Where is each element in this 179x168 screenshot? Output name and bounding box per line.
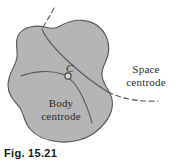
label-space-centrode: Space centrode [116, 63, 176, 88]
figure-caption: Fig. 15.21 [4, 147, 57, 159]
rigid-body-blob [8, 20, 112, 142]
figure-container: C Space centrode Body centrode Fig. 15.2… [0, 0, 179, 168]
space-centrode-upper-dashed [42, 8, 54, 29]
space-centrode-lower-dashed [108, 92, 158, 101]
label-body-centrode: Body centrode [30, 97, 92, 122]
label-point-c: C [66, 62, 73, 74]
